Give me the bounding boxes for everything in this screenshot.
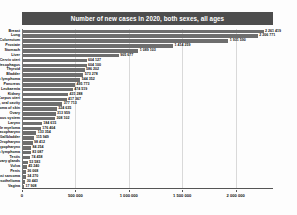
bar — [22, 112, 56, 116]
category-label: Leukaemia — [1, 88, 20, 92]
x-tick — [75, 190, 76, 192]
bar — [22, 136, 34, 140]
x-tick-label: 1 000 000 — [120, 193, 138, 198]
bar-value-label: 474 519 — [74, 88, 87, 92]
bar-value-label: 184 615 — [43, 122, 56, 126]
bar-value-label: 1 931 590 — [230, 39, 246, 43]
bar-value-label: 1 414 259 — [175, 44, 191, 48]
bar — [22, 146, 31, 150]
bar — [22, 78, 80, 82]
bar — [22, 54, 119, 58]
bar — [22, 73, 83, 77]
chart-title-banner: Number of new cases in 2020, both sexes,… — [22, 12, 273, 25]
bar-value-label: 495 773 — [76, 83, 89, 87]
x-tick-label: 2 000 000 — [227, 193, 245, 198]
category-label: Larynx — [8, 122, 20, 126]
bar-value-label: 30 443 — [27, 180, 38, 184]
category-label: Vagina — [8, 185, 20, 189]
bar-value-label: 74 458 — [31, 156, 42, 160]
x-tick-label: 1 500 000 — [173, 193, 191, 198]
x-tick — [129, 190, 130, 192]
bar — [22, 107, 57, 111]
bar-value-label: 604 127 — [88, 59, 101, 63]
chart-title: Number of new cases in 2020, both sexes,… — [71, 15, 224, 22]
x-tick — [182, 190, 183, 192]
bar — [22, 59, 87, 63]
bar — [22, 93, 68, 97]
bar-rows: Breast2 261 419Lung2 206 771Colorectum1 … — [22, 29, 273, 189]
bar — [22, 88, 73, 92]
bar — [22, 151, 31, 155]
bar — [22, 117, 55, 121]
bar — [22, 131, 36, 135]
bar — [22, 64, 87, 68]
bar-value-label: 905 677 — [120, 54, 133, 58]
bar — [22, 68, 85, 72]
category-label: Cervix uteri — [0, 59, 20, 63]
chart-screenshot: Number of new cases in 2020, both sexes,… — [0, 0, 297, 215]
bar — [22, 122, 42, 126]
bar — [22, 30, 264, 34]
x-axis-line — [22, 188, 273, 189]
category-label: Mesothelioma — [0, 180, 20, 184]
x-tick — [236, 190, 237, 192]
bar-value-label: 2 206 771 — [259, 34, 275, 38]
bar — [22, 141, 33, 145]
category-label: Hodgkin lymphoma — [0, 151, 20, 155]
category-label: Brain, central nervous system — [0, 117, 20, 121]
bar — [22, 83, 75, 87]
x-axis: 0500 0001 000 0001 500 0002 000 000 — [22, 190, 273, 204]
bar — [22, 98, 67, 102]
bar — [22, 156, 30, 160]
category-label: Liver — [11, 54, 20, 58]
bar-value-label: 431 288 — [70, 93, 83, 97]
bar — [22, 102, 62, 106]
bar-value-label: 308 102 — [56, 117, 69, 121]
bar-value-label: 1 089 103 — [140, 49, 156, 53]
x-tick-label: 0 — [21, 193, 23, 198]
bar-value-label: 83 087 — [32, 151, 43, 155]
plot-area: Breast2 261 419Lung2 206 771Colorectum1 … — [22, 29, 273, 189]
y-axis-line — [22, 29, 23, 189]
x-tick — [22, 190, 23, 192]
bar — [22, 39, 228, 43]
bar — [22, 34, 258, 38]
x-tick-label: 500 000 — [68, 193, 83, 198]
